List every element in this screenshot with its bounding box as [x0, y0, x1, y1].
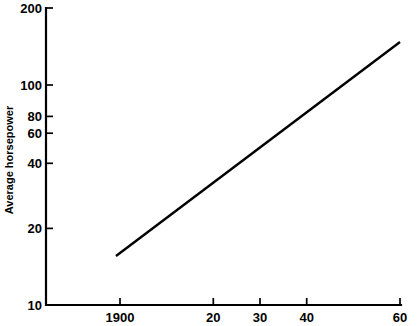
y-tick-label-100: 100 — [20, 78, 42, 93]
y-tick-label-40: 40 — [28, 156, 42, 171]
x-tick-label-1930: 30 — [253, 310, 267, 325]
x-tick-labels: 1900 20 30 40 60 — [106, 310, 408, 325]
y-tick-label-10: 10 — [28, 298, 42, 313]
chart-figure: 200 100 80 60 40 20 10 1900 20 30 40 60 — [0, 0, 420, 326]
x-tick-label-1900: 1900 — [106, 310, 135, 325]
y-tick-label-200: 200 — [20, 1, 42, 16]
y-tick-label-60: 60 — [28, 126, 42, 141]
data-series-average-horsepower — [116, 42, 400, 256]
y-axis-title: Average horsepower — [3, 105, 15, 214]
x-tick-label-1960: 60 — [393, 310, 407, 325]
axis-spine — [46, 8, 401, 305]
chart-plot-area: 200 100 80 60 40 20 10 1900 20 30 40 60 — [0, 0, 420, 326]
y-tick-label-80: 80 — [28, 109, 42, 124]
x-tick-label-1920: 20 — [206, 310, 220, 325]
data-line-average-horsepower — [116, 42, 400, 256]
y-tick-labels: 200 100 80 60 40 20 10 — [20, 1, 42, 313]
y-tick-label-20: 20 — [28, 221, 42, 236]
x-tick-label-1940: 40 — [299, 310, 313, 325]
